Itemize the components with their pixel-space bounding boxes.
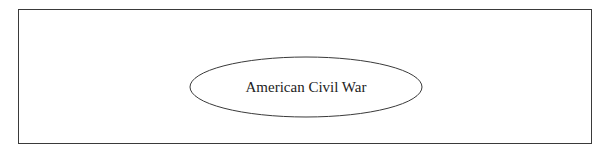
node-label-american-civil-war: American Civil War xyxy=(190,57,422,117)
